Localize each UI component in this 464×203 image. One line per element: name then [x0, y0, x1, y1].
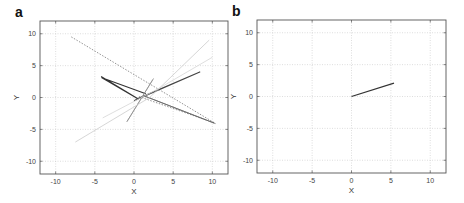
y-tick-label: 5 — [32, 62, 36, 69]
x-axis-label: X — [349, 186, 355, 195]
y-tick-label: 0 — [249, 93, 253, 100]
y-tick-label: 0 — [32, 94, 36, 101]
y-tick-label: 10 — [28, 30, 36, 37]
y-tick-label: -10 — [26, 158, 36, 165]
figure: -10-50510-10-50510XYa -10-50510-10-50510… — [0, 0, 464, 203]
x-tick-label: 0 — [350, 177, 354, 184]
y-axis-label: Y — [229, 93, 238, 99]
x-tick-label: -5 — [92, 178, 98, 185]
x-tick-label: -5 — [309, 177, 315, 184]
x-tick-label: 10 — [426, 177, 434, 184]
series-trajectory-light-1 — [75, 40, 209, 142]
panel-label: a — [15, 4, 23, 20]
series-trajectory — [352, 83, 395, 96]
x-tick-label: -10 — [268, 177, 278, 184]
y-tick-label: 10 — [245, 29, 253, 36]
x-tick-label: 0 — [132, 178, 136, 185]
x-tick-label: 5 — [389, 177, 393, 184]
x-axis-label: X — [131, 187, 137, 196]
panel-b: -10-50510-10-50510XYb — [229, 3, 446, 195]
y-tick-label: -10 — [243, 157, 253, 164]
x-tick-label: -10 — [51, 178, 61, 185]
panel-label: b — [232, 3, 241, 19]
series-trajectory-loop — [127, 78, 154, 121]
x-tick-label: 10 — [208, 178, 216, 185]
series-trajectory-dotted — [71, 37, 214, 123]
series-trajectory-dark-1 — [101, 77, 146, 99]
y-tick-label: 5 — [249, 61, 253, 68]
series-trajectory-mid — [143, 96, 215, 124]
panel-a: -10-50510-10-50510XYa — [12, 4, 228, 196]
y-tick-label: -5 — [247, 125, 253, 132]
x-tick-label: 5 — [171, 178, 175, 185]
y-tick-label: -5 — [30, 126, 36, 133]
y-axis-label: Y — [12, 94, 21, 100]
